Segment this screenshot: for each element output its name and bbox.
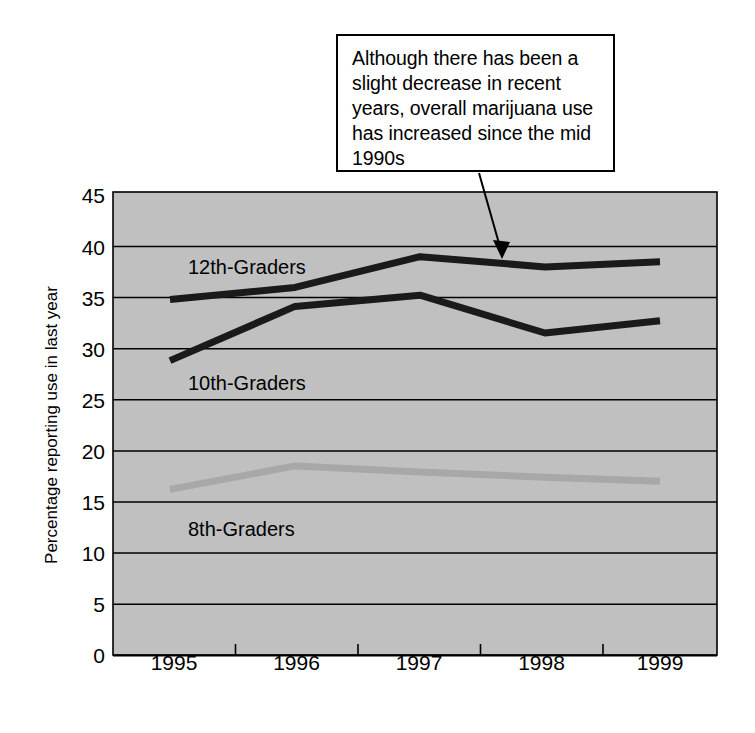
chart-canvas xyxy=(0,0,755,733)
series-label-12th-graders: 12th-Graders xyxy=(188,256,306,279)
line-chart: Percentage reporting use in last year 45… xyxy=(0,0,755,733)
chart-figure: Although there has been a slight decreas… xyxy=(0,0,755,733)
series-label-10th-graders: 10th-Graders xyxy=(188,372,306,395)
series-label-8th-graders: 8th-Graders xyxy=(188,518,295,541)
